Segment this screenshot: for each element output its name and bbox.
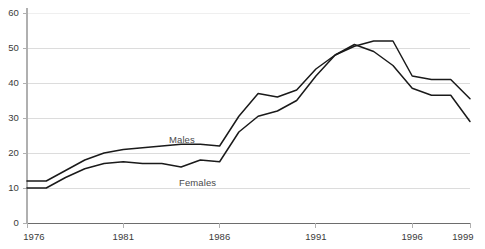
y-tick-label-0: 0 [0,217,19,228]
gridlines [27,13,470,188]
series-label-males: Males [169,134,195,145]
chart-canvas [0,0,485,249]
series-label-females: Females [179,177,216,188]
x-tick-label-1976: 1976 [14,231,54,242]
y-tick-label-20: 20 [0,147,19,158]
y-tick-label-40: 40 [0,77,19,88]
y-tick-label-60: 60 [0,7,19,18]
x-tick-label-1986: 1986 [200,231,240,242]
x-tick-label-1991: 1991 [296,231,336,242]
series-line-females [27,45,470,189]
axis-ticks [23,13,470,228]
axes [27,8,470,223]
y-tick-label-30: 30 [0,112,19,123]
line-chart: 0102030405060 197619811986199119961999 M… [0,0,485,249]
data-series [27,41,470,188]
series-line-males [27,41,470,181]
x-tick-label-1996: 1996 [392,231,432,242]
y-tick-label-50: 50 [0,42,19,53]
x-tick-label-1999: 1999 [443,231,483,242]
x-tick-label-1981: 1981 [103,231,143,242]
y-tick-label-10: 10 [0,182,19,193]
